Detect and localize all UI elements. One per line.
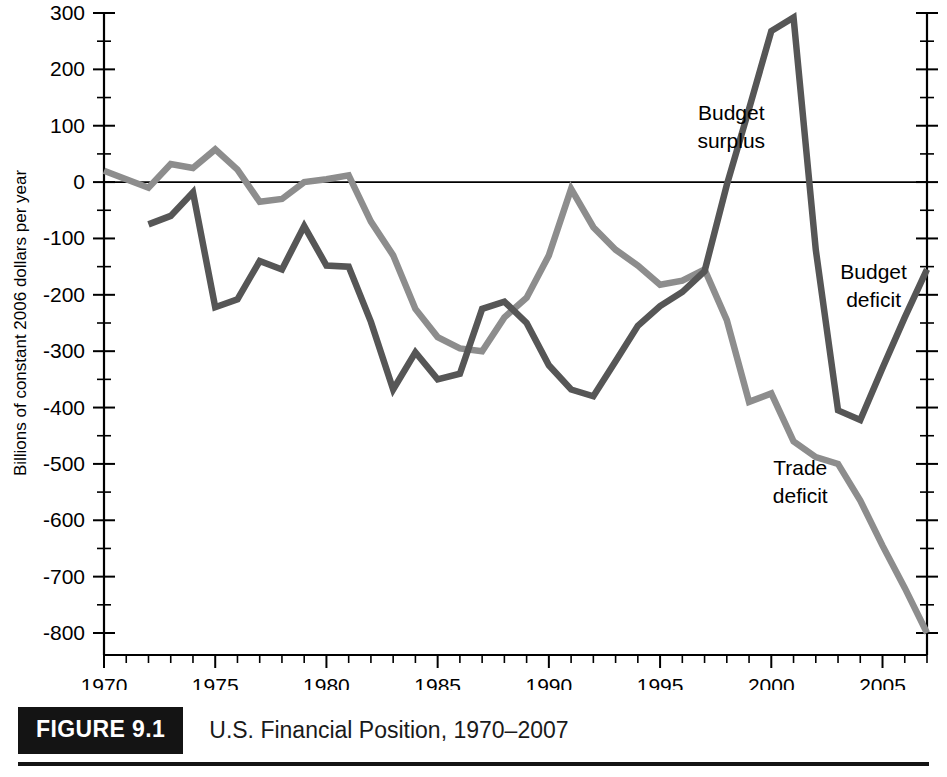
y-tick-label: 100 (50, 114, 85, 137)
caption-divider-rule (18, 762, 929, 766)
x-tick-label: 1995 (637, 674, 684, 690)
chart-plot-area: 3002001000-100-200-300-400-500-600-700-8… (0, 0, 947, 690)
y-tick-label: -100 (43, 226, 85, 249)
financial-position-line-chart: 3002001000-100-200-300-400-500-600-700-8… (0, 0, 947, 690)
annotation-label: Trade (773, 456, 827, 479)
right-axis (916, 13, 938, 655)
x-tick-label: 2000 (748, 674, 795, 690)
y-tick-label: -500 (43, 452, 85, 475)
y-tick-label: -200 (43, 283, 85, 306)
y-tick-label: 200 (50, 57, 85, 80)
figure-caption-bar: FIGURE 9.1 U.S. Financial Position, 1970… (0, 690, 947, 777)
x-axis: 19701975198019851990199520002005 (81, 655, 927, 690)
y-tick-label: -800 (43, 621, 85, 644)
y-axis: 3002001000-100-200-300-400-500-600-700-8… (43, 1, 115, 655)
annotation-label: deficit (773, 484, 828, 507)
figure-caption-text: U.S. Financial Position, 1970–2007 (183, 707, 568, 754)
annotation-label: surplus (697, 129, 765, 152)
x-tick-label: 1980 (303, 674, 350, 690)
x-tick-label: 2005 (859, 674, 906, 690)
y-axis-title-group: Billions of constant 2006 dollars per ye… (11, 170, 30, 477)
y-tick-label: 0 (73, 170, 85, 193)
x-tick-label: 1975 (192, 674, 239, 690)
series-line-budget-surplus-deficit (148, 18, 927, 420)
y-tick-label: 300 (50, 1, 85, 24)
series-line-trade-deficit (104, 149, 927, 633)
annotation-label: deficit (846, 288, 901, 311)
figure-number-badge: FIGURE 9.1 (18, 707, 183, 754)
annotation-label: Budget (698, 101, 765, 124)
y-axis-title: Billions of constant 2006 dollars per ye… (11, 170, 30, 477)
data-series-group (104, 18, 927, 633)
y-tick-label: -400 (43, 396, 85, 419)
x-tick-label: 1985 (414, 674, 461, 690)
y-tick-label: -600 (43, 508, 85, 531)
figure-container: 3002001000-100-200-300-400-500-600-700-8… (0, 0, 947, 777)
x-tick-label: 1990 (526, 674, 573, 690)
y-tick-label: -700 (43, 565, 85, 588)
annotation-label: Budget (840, 260, 907, 283)
y-tick-label: -300 (43, 339, 85, 362)
x-tick-label: 1970 (81, 674, 128, 690)
